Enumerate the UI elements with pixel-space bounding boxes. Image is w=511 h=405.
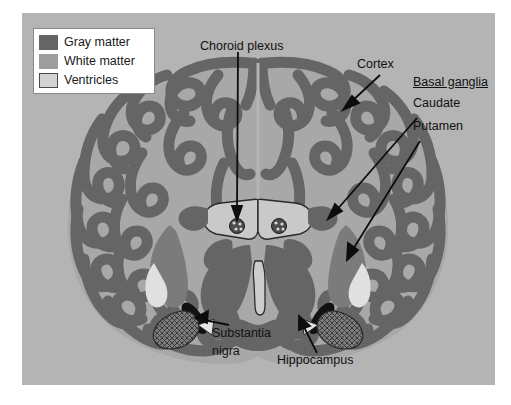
legend-item-ventricles: Ventricles	[39, 71, 149, 90]
figure-root: Gray matter White matter Ventricles Chor…	[0, 0, 511, 405]
label-substantia-nigra-line1: Substantia	[212, 326, 271, 340]
label-cortex: Cortex	[357, 57, 394, 71]
label-caudate: Caudate	[413, 96, 460, 110]
legend-swatch-white-matter	[39, 54, 58, 69]
label-putamen: Putamen	[413, 119, 463, 133]
legend-label-gray-matter: Gray matter	[64, 36, 130, 49]
label-hippocampus: Hippocampus	[277, 353, 353, 367]
legend-box: Gray matter White matter Ventricles	[33, 28, 155, 94]
legend-item-gray-matter: Gray matter	[39, 33, 149, 52]
legend-label-white-matter: White matter	[64, 55, 135, 68]
lateral-ventricles	[204, 199, 313, 239]
legend-label-ventricles: Ventricles	[64, 74, 118, 87]
label-basal-ganglia: Basal ganglia	[413, 75, 488, 89]
third-ventricle	[253, 261, 265, 315]
label-substantia-nigra-line2: nigra	[212, 344, 240, 358]
legend-item-white-matter: White matter	[39, 52, 149, 71]
legend-swatch-gray-matter	[39, 35, 58, 50]
label-choroid-plexus: Choroid plexus	[200, 39, 283, 53]
legend-swatch-ventricles	[39, 73, 58, 88]
figure-panel: Gray matter White matter Ventricles Chor…	[22, 13, 495, 385]
